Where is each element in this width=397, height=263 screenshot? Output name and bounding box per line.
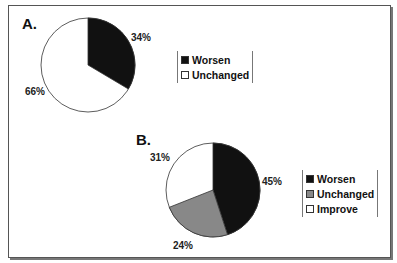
legend-b-label-unchanged: Unchanged: [317, 188, 374, 200]
legend-a-item-unchanged: Unchanged: [181, 67, 249, 82]
pie-a-label-unchanged: 66%: [25, 86, 45, 97]
legend-a-label-worsen: Worsen: [192, 54, 230, 66]
pie-b-label-worsen: 45%: [262, 176, 282, 187]
pie-a-label-worsen: 34%: [131, 32, 151, 43]
pie-b-label-unchanged: 24%: [173, 240, 193, 251]
legend-a-item-worsen: Worsen: [181, 52, 249, 67]
swatch-unchanged-icon: [306, 190, 314, 198]
panel-b-label: B.: [136, 131, 151, 148]
pie-chart-a: [41, 18, 135, 112]
legend-b-label-improve: Improve: [317, 203, 358, 215]
legend-a: Worsen Unchanged: [177, 51, 253, 83]
swatch-worsen-icon: [306, 175, 314, 183]
legend-b-item-worsen: Worsen: [306, 171, 374, 186]
panel-a-label: A.: [22, 15, 37, 32]
legend-b-item-improve: Improve: [306, 201, 374, 216]
legend-b-item-unchanged: Unchanged: [306, 186, 374, 201]
pie-chart-b: [166, 143, 260, 237]
legend-b: Worsen Unchanged Improve: [302, 170, 378, 217]
swatch-improve-icon: [306, 205, 314, 213]
swatch-worsen-icon: [181, 56, 189, 64]
legend-b-label-worsen: Worsen: [317, 173, 355, 185]
legend-a-label-unchanged: Unchanged: [192, 69, 249, 81]
pie-b-label-improve: 31%: [150, 152, 170, 163]
swatch-unchanged-icon: [181, 71, 189, 79]
pie-charts: [0, 0, 397, 263]
